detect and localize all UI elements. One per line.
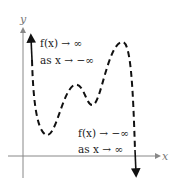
right-limit-annotation: f(x) → −∞ [78,128,129,139]
left-arrow-icon [31,38,32,60]
y-axis-label: y [20,14,26,25]
left-limit-condition: as x → −∞ [40,55,94,66]
right-limit-condition: as x → ∞ [78,144,123,155]
graph [0,0,176,183]
left-limit-annotation: f(x) → ∞ [40,38,82,49]
right-arrow-icon [135,150,136,173]
x-axis-label: x [162,151,168,162]
